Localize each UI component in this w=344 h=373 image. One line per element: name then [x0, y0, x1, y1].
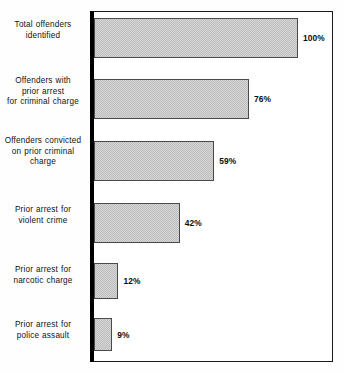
- bar-value-label: 42%: [185, 218, 202, 228]
- bar-value-label: 100%: [303, 33, 325, 43]
- bar-value-label: 9%: [117, 330, 129, 340]
- bar-offenders-convicted-prior-charge: [94, 141, 214, 181]
- bar-value-label: 59%: [219, 156, 236, 166]
- bar-offenders-with-prior-arrest: [94, 79, 249, 119]
- bar-total-offenders-identified: [94, 18, 298, 58]
- bars-layer: 100% 76% 59% 42% 12% 9%: [0, 0, 344, 373]
- bar-prior-arrest-police-assault: [94, 318, 112, 351]
- bar-prior-arrest-narcotic-charge: [94, 263, 118, 299]
- bar-value-label: 12%: [123, 276, 140, 286]
- bar-chart: Total offendersidentified Offenders with…: [0, 0, 344, 373]
- bar-value-label: 76%: [254, 94, 271, 104]
- bar-prior-arrest-violent-crime: [94, 203, 180, 243]
